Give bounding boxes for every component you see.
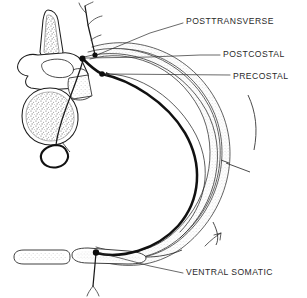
rib-angle-mark-outer <box>226 163 250 172</box>
ventral-somatic-twig-right <box>93 286 99 296</box>
posttransverse-trunk <box>85 6 95 55</box>
intercostal-artery-main <box>83 59 197 255</box>
rib-tubercle-contour <box>248 95 256 150</box>
node-ventral-somatic-origin <box>93 249 99 255</box>
posttransverse-twig-lateral <box>88 16 102 25</box>
spinous-process <box>40 10 63 57</box>
anatomical-figure: POSTTRANSVERSE POSTCOSTAL PRECOSTAL VENT… <box>0 0 307 298</box>
rib-outer-stipple <box>60 25 300 280</box>
vessel-ring-loop <box>41 145 68 168</box>
rib-distal-contour <box>213 222 218 245</box>
sternum-cancellous <box>18 253 66 261</box>
leader-precostal <box>106 74 230 75</box>
transverse-process-outline <box>68 75 92 99</box>
spinal-canal-loop <box>41 145 68 168</box>
diagram-canvas: POSTTRANSVERSE POSTCOSTAL PRECOSTAL VENT… <box>0 0 307 298</box>
transverse-process <box>68 75 92 100</box>
lateral-cutaneous-twig <box>205 233 221 246</box>
posttransverse-twig-mid <box>91 35 101 40</box>
label-precostal: PRECOSTAL <box>233 71 288 81</box>
ventral-somatic-twig-left <box>87 286 93 296</box>
label-postcostal: POSTCOSTAL <box>223 49 285 59</box>
label-posttransverse: POSTTRANSVERSE <box>186 16 274 26</box>
sternum <box>14 250 70 264</box>
posttransverse-twig-apex <box>85 2 93 6</box>
lateral-twig-stem <box>205 233 221 246</box>
vertebral-body-cancellous <box>26 92 74 141</box>
node-postcostal-origin <box>79 55 85 61</box>
rib-outer-band <box>60 25 300 280</box>
node-precostal-origin <box>99 71 105 77</box>
label-ventral-somatic: VENTRAL SOMATIC <box>186 267 273 277</box>
